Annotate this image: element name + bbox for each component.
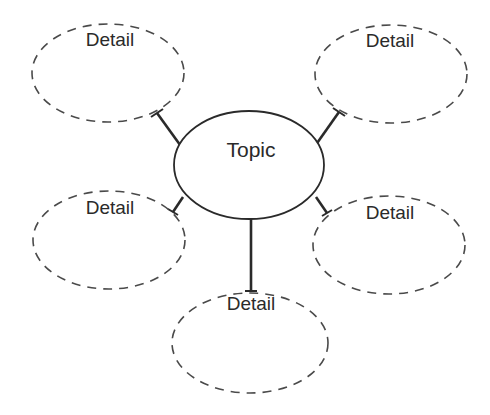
diagram-svg: Detail Detail Detail Detail Detail Topic: [0, 0, 490, 415]
connector-top-right: [315, 108, 345, 146]
detail-node-top-right[interactable]: Detail: [315, 25, 467, 123]
detail-label-middle-left: Detail: [86, 197, 135, 218]
detail-label-middle-right: Detail: [366, 202, 415, 223]
connector-top-left: [151, 109, 183, 149]
concept-web-diagram: Detail Detail Detail Detail Detail Topic: [0, 0, 490, 415]
detail-label-top-left: Detail: [86, 29, 135, 50]
detail-label-top-right: Detail: [366, 30, 415, 51]
connector-middle-left: [168, 197, 183, 215]
detail-node-middle-left[interactable]: Detail: [33, 191, 185, 289]
topic-node[interactable]: Topic: [174, 111, 324, 219]
connector-middle-right: [316, 197, 332, 216]
detail-node-top-left[interactable]: Detail: [32, 24, 184, 122]
connector-bottom: [245, 219, 257, 291]
detail-node-middle-right[interactable]: Detail: [313, 196, 465, 294]
detail-label-bottom: Detail: [227, 293, 276, 314]
solid-ellipse: [174, 111, 324, 219]
detail-node-bottom[interactable]: Detail: [172, 293, 328, 393]
topic-label: Topic: [226, 138, 275, 161]
